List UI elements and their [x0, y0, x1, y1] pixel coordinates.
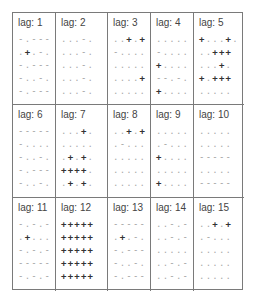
dot-symbol: .	[226, 126, 233, 136]
dot-symbol: .	[219, 258, 226, 268]
dot-symbol: .	[183, 178, 190, 188]
dot-symbol: .	[113, 165, 120, 175]
plus-symbol: +	[199, 73, 206, 83]
minus-symbol: -	[38, 258, 45, 268]
symbol-row: ..-.-	[156, 231, 193, 244]
minus-symbol: -	[169, 219, 176, 229]
dot-symbol: .	[176, 271, 183, 281]
dot-symbol: .	[199, 60, 206, 70]
minus-symbol: -	[31, 86, 38, 96]
dot-symbol: .	[126, 165, 133, 175]
dot-symbol: .	[156, 34, 163, 44]
symbol-row: .....	[113, 59, 150, 72]
symbol-row: .....	[61, 138, 107, 151]
symbol-row: ....+	[113, 72, 150, 85]
minus-symbol: -	[38, 152, 45, 162]
symbol-row: +++++	[61, 244, 107, 257]
dot-symbol: .	[212, 232, 219, 242]
dot-symbol: .	[140, 139, 147, 149]
dot-symbol: .	[169, 73, 176, 83]
dot-symbol: .	[31, 152, 38, 162]
lag-title: lag: 7	[61, 109, 107, 121]
minus-symbol: -	[38, 178, 45, 188]
dot-symbol: .	[199, 219, 206, 229]
dot-symbol: .	[61, 47, 68, 57]
dot-symbol: .	[219, 126, 226, 136]
dot-symbol: .	[212, 165, 219, 175]
dot-symbol: .	[219, 232, 226, 242]
lag-title: lag: 9	[156, 109, 193, 121]
plus-symbol: +	[81, 152, 88, 162]
dot-symbol: .	[169, 139, 176, 149]
plus-symbol: +	[219, 60, 226, 70]
dot-symbol: .	[219, 139, 226, 149]
minus-symbol: -	[18, 165, 25, 175]
dot-symbol: .	[126, 73, 133, 83]
plus-symbol: +	[140, 73, 147, 83]
symbol-row: -..-.	[113, 257, 150, 270]
dot-symbol: .	[45, 139, 52, 149]
dot-symbol: .	[61, 34, 68, 44]
minus-symbol: -	[45, 60, 52, 70]
lag-cell-7: lag: 7...+.......+.+.++++..+.+.	[56, 105, 108, 198]
dot-symbol: .	[183, 126, 190, 136]
lag-title: lag: 10	[199, 109, 244, 121]
plus-symbol: +	[74, 258, 81, 268]
dot-symbol: .	[199, 47, 206, 57]
minus-symbol: -	[140, 219, 147, 229]
dot-symbol: .	[140, 178, 147, 188]
plus-symbol: +	[156, 86, 163, 96]
dot-symbol: .	[31, 47, 38, 57]
symbol-row: +....	[156, 85, 193, 98]
dot-symbol: .	[31, 232, 38, 242]
symbol-row: .+.-.	[18, 46, 55, 59]
symbol-row: ..+.+	[199, 218, 244, 231]
symbol-row: .....	[199, 164, 244, 177]
symbol-row: -..-.	[18, 151, 55, 164]
dot-symbol: .	[156, 232, 163, 242]
dot-symbol: .	[74, 152, 81, 162]
dot-symbol: .	[183, 245, 190, 255]
symbol-row: .....	[199, 257, 244, 270]
dot-symbol: .	[81, 139, 88, 149]
plus-symbol: +	[88, 232, 95, 242]
dot-symbol: .	[156, 165, 163, 175]
minus-symbol: -	[38, 126, 45, 136]
dot-symbol: .	[38, 232, 45, 242]
symbol-row: .....	[199, 138, 244, 151]
plus-symbol: +	[156, 152, 163, 162]
dot-symbol: .	[183, 152, 190, 162]
plus-symbol: +	[81, 245, 88, 255]
lag-title: lag: 4	[156, 17, 193, 29]
dot-symbol: .	[212, 34, 219, 44]
minus-symbol: -	[38, 60, 45, 70]
symbol-row: ...+.	[61, 125, 107, 138]
dot-symbol: .	[140, 232, 147, 242]
dot-symbol: .	[74, 178, 81, 188]
symbol-row: .....	[199, 125, 244, 138]
symbol-row: ..+.+	[113, 125, 150, 138]
symbol-row: ...-.	[61, 59, 107, 72]
dot-symbol: .	[176, 34, 183, 44]
minus-symbol: -	[226, 152, 233, 162]
dot-symbol: .	[113, 73, 120, 83]
minus-symbol: -	[133, 245, 140, 255]
dot-symbol: .	[133, 178, 140, 188]
minus-symbol: -	[18, 86, 25, 96]
lag-title: lag: 5	[199, 17, 244, 29]
dot-symbol: .	[169, 152, 176, 162]
lag-title: lag: 15	[199, 202, 244, 214]
dot-symbol: .	[61, 86, 68, 96]
symbol-row: -....	[113, 46, 150, 59]
dot-symbol: .	[74, 126, 81, 136]
symbol-row: -....	[18, 138, 55, 151]
minus-symbol: -	[183, 219, 190, 229]
lag-title: lag: 8	[113, 109, 150, 121]
dot-symbol: .	[126, 258, 133, 268]
minus-symbol: -	[140, 245, 147, 255]
minus-symbol: -	[113, 219, 120, 229]
plus-symbol: +	[156, 60, 163, 70]
plus-symbol: +	[88, 271, 95, 281]
dot-symbol: .	[140, 60, 147, 70]
minus-symbol: -	[18, 271, 25, 281]
